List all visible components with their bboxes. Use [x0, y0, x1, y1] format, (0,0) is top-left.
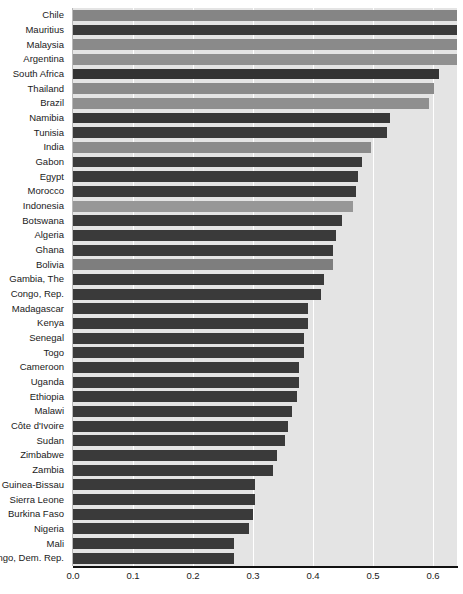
- bar-row[interactable]: [73, 287, 457, 302]
- x-axis-tick-label: 0.3: [246, 570, 259, 581]
- bar[interactable]: [73, 333, 304, 344]
- y-axis-label-text: Ghana: [35, 245, 64, 255]
- bar-row[interactable]: [73, 360, 457, 375]
- y-axis-label-text: Nigeria: [34, 524, 64, 534]
- y-axis-label: Zambia: [0, 463, 68, 478]
- bar[interactable]: [73, 377, 299, 388]
- bar[interactable]: [73, 113, 390, 124]
- y-axis-label-text: Tunisia: [34, 128, 64, 138]
- y-axis-label: Congo, Rep.: [0, 287, 68, 302]
- y-axis-label: India: [0, 140, 68, 155]
- bar[interactable]: [73, 391, 297, 402]
- y-axis-label: Chile: [0, 8, 68, 23]
- bar[interactable]: [73, 10, 457, 21]
- bar[interactable]: [73, 186, 356, 197]
- bar[interactable]: [73, 171, 358, 182]
- y-axis-label-text: Senegal: [29, 333, 64, 343]
- bar-row[interactable]: [73, 8, 457, 23]
- bar[interactable]: [73, 69, 439, 80]
- bar-row[interactable]: [73, 536, 457, 551]
- bar-row[interactable]: [73, 140, 457, 155]
- bar-row[interactable]: [73, 213, 457, 228]
- bar[interactable]: [73, 435, 285, 446]
- bar[interactable]: [73, 230, 336, 241]
- bar-row[interactable]: [73, 478, 457, 493]
- y-axis-label-text: Botswana: [22, 216, 64, 226]
- bar[interactable]: [73, 98, 429, 109]
- bar[interactable]: [73, 259, 333, 270]
- bar[interactable]: [73, 39, 457, 50]
- bar[interactable]: [73, 347, 304, 358]
- bar-row[interactable]: [73, 551, 457, 566]
- bar-row[interactable]: [73, 389, 457, 404]
- y-axis-label: Zimbabwe: [0, 448, 68, 463]
- bar[interactable]: [73, 465, 273, 476]
- bar[interactable]: [73, 157, 362, 168]
- bar-row[interactable]: [73, 331, 457, 346]
- bar[interactable]: [73, 494, 255, 505]
- x-axis-tick-label: 0.4: [306, 570, 319, 581]
- y-axis-label: Nigeria: [0, 522, 68, 537]
- bar[interactable]: [73, 25, 457, 36]
- bar-row[interactable]: [73, 96, 457, 111]
- bar-row[interactable]: [73, 169, 457, 184]
- x-axis-tick-label: 0.0: [66, 570, 79, 581]
- bar-row[interactable]: [73, 37, 457, 52]
- bar[interactable]: [73, 553, 234, 564]
- bar-row[interactable]: [73, 419, 457, 434]
- bar[interactable]: [73, 523, 249, 534]
- bar-row[interactable]: [73, 81, 457, 96]
- bar-row[interactable]: [73, 492, 457, 507]
- y-axis-label-text: Brazil: [40, 99, 64, 109]
- y-axis-label: Brazil: [0, 96, 68, 111]
- bar-row[interactable]: [73, 243, 457, 258]
- y-axis-label-text: Zimbabwe: [20, 451, 64, 461]
- bar[interactable]: [73, 83, 434, 94]
- bar[interactable]: [73, 54, 457, 65]
- bar-row[interactable]: [73, 23, 457, 38]
- y-axis-label: Ethiopia: [0, 389, 68, 404]
- bar-row[interactable]: [73, 448, 457, 463]
- bar[interactable]: [73, 274, 324, 285]
- bar-row[interactable]: [73, 199, 457, 214]
- bar[interactable]: [73, 289, 321, 300]
- bar[interactable]: [73, 538, 234, 549]
- y-axis-label-text: Mauritius: [25, 25, 64, 35]
- bar[interactable]: [73, 127, 387, 138]
- bar[interactable]: [73, 142, 371, 153]
- bar[interactable]: [73, 215, 342, 226]
- bar-row[interactable]: [73, 228, 457, 243]
- bar[interactable]: [73, 318, 308, 329]
- bar-row[interactable]: [73, 301, 457, 316]
- bar[interactable]: [73, 406, 292, 417]
- y-axis-label: Algeria: [0, 228, 68, 243]
- bar-row[interactable]: [73, 67, 457, 82]
- bar-row[interactable]: [73, 507, 457, 522]
- y-axis-label-text: Zambia: [32, 465, 64, 475]
- bar[interactable]: [73, 479, 255, 490]
- bar-row[interactable]: [73, 257, 457, 272]
- bar-row[interactable]: [73, 433, 457, 448]
- bar-row[interactable]: [73, 375, 457, 390]
- bar-row[interactable]: [73, 272, 457, 287]
- bar[interactable]: [73, 509, 253, 520]
- bar-row[interactable]: [73, 184, 457, 199]
- bar-row[interactable]: [73, 125, 457, 140]
- bar[interactable]: [73, 201, 353, 212]
- bar-row[interactable]: [73, 111, 457, 126]
- bar-row[interactable]: [73, 155, 457, 170]
- bar-row[interactable]: [73, 522, 457, 537]
- y-axis-label-text: Algeria: [34, 231, 64, 241]
- bar-row[interactable]: [73, 404, 457, 419]
- y-axis-label-text: Uganda: [31, 377, 64, 387]
- bar-row[interactable]: [73, 52, 457, 67]
- bar[interactable]: [73, 245, 333, 256]
- bar-row[interactable]: [73, 463, 457, 478]
- bar-row[interactable]: [73, 316, 457, 331]
- bar-row[interactable]: [73, 345, 457, 360]
- y-axis-label: Thailand: [0, 81, 68, 96]
- bar[interactable]: [73, 450, 277, 461]
- bar[interactable]: [73, 421, 288, 432]
- bar[interactable]: [73, 362, 299, 373]
- bar[interactable]: [73, 303, 308, 314]
